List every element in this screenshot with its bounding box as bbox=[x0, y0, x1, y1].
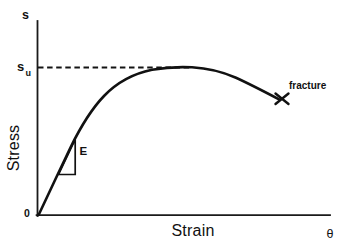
fracture-label: fracture bbox=[289, 80, 327, 91]
stress-strain-figure: s s u 0 E fracture Stress Strain θ bbox=[0, 0, 342, 246]
ultimate-strength-label-group: s u bbox=[17, 59, 31, 78]
elastic-modulus-triangle bbox=[59, 140, 76, 175]
ultimate-strength-subscript-label: u bbox=[26, 68, 32, 78]
origin-label: 0 bbox=[24, 207, 30, 219]
modulus-triangle-shape bbox=[59, 140, 76, 175]
axes-group bbox=[37, 21, 330, 216]
y-axis-title: Stress bbox=[5, 125, 22, 172]
y-axis-symbol-label: s bbox=[22, 8, 29, 22]
x-axis-symbol-label: θ bbox=[327, 227, 334, 241]
stress-strain-plot: s s u 0 E fracture Stress Strain θ bbox=[0, 0, 342, 246]
ultimate-strength-symbol-label: s bbox=[17, 59, 24, 74]
modulus-label: E bbox=[80, 145, 88, 157]
x-axis-title: Strain bbox=[172, 222, 215, 239]
